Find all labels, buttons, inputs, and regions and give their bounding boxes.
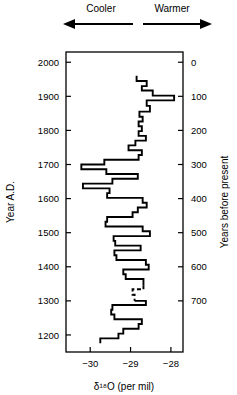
x-tick-label: −28	[163, 358, 179, 369]
data-line	[133, 285, 144, 301]
y-tick-label-left: 1500	[38, 227, 59, 238]
y-axis-right-title: Years before present	[219, 156, 230, 249]
warmer-label: Warmer	[154, 3, 190, 14]
cooler-label: Cooler	[86, 3, 116, 14]
x-tick-label: −29	[122, 358, 138, 369]
plot-frame	[66, 52, 183, 352]
y-tick-label-left: 2000	[38, 57, 59, 68]
data-line	[81, 76, 174, 285]
chart-svg: Cooler Warmer 20001900180017001600150014…	[0, 0, 237, 395]
y-tick-label-left: 1600	[38, 193, 59, 204]
x-axis-title: δ¹⁸O (per mil)	[94, 381, 154, 392]
x-tick-label: −30	[82, 358, 98, 369]
y-tick-label-right: 100	[191, 91, 207, 102]
arrow-left-icon	[63, 19, 133, 29]
y-tick-label-left: 1200	[38, 330, 59, 341]
y-tick-label-left: 1800	[38, 125, 59, 136]
y-tick-label-left: 1400	[38, 261, 59, 272]
arrow-right-icon	[143, 19, 212, 29]
y-tick-label-right: 0	[191, 57, 196, 68]
y-tick-label-right: 500	[191, 227, 207, 238]
x-axis-ticks: −30−29−28	[82, 347, 179, 369]
data-line	[100, 301, 146, 343]
y-tick-label-left: 1900	[38, 91, 59, 102]
y-tick-label-right: 600	[191, 261, 207, 272]
data-series-group	[81, 76, 174, 343]
y-tick-label-right: 700	[191, 295, 207, 306]
y-tick-label-right: 400	[191, 193, 207, 204]
chart-figure: Cooler Warmer 20001900180017001600150014…	[0, 0, 237, 395]
y-tick-label-left: 1300	[38, 295, 59, 306]
y-tick-label-left: 1700	[38, 159, 59, 170]
y-tick-label-right: 200	[191, 125, 207, 136]
y-axis-left-title: Year A.D.	[5, 181, 16, 223]
y-tick-label-right: 300	[191, 159, 207, 170]
y-axis-right-ticks: 0100200300400500600700	[178, 57, 207, 307]
